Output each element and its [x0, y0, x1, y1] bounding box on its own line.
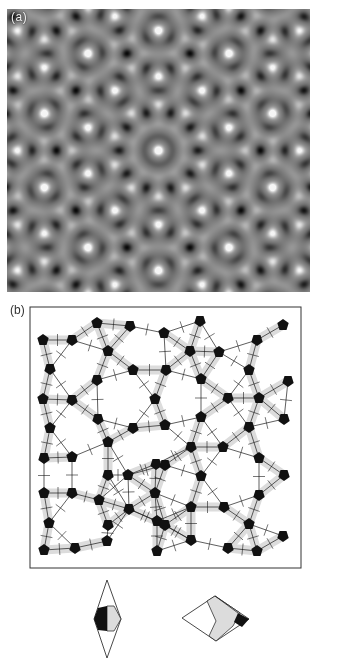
thin-rhombus-grey: [107, 606, 121, 631]
tiling-diagram: [0, 0, 352, 664]
thin-rhombus-black: [94, 606, 107, 631]
